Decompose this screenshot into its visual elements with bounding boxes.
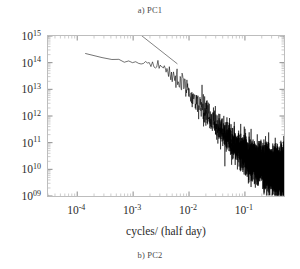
spectrum-plot-svg: 10-410-310-210-1 10151014101310121011101… — [0, 24, 300, 246]
figure-caption-top: a) PC1 — [0, 5, 300, 15]
plot-background — [0, 24, 300, 246]
x-axis-title: cycles/ (half day) — [126, 225, 206, 238]
plot-area: 10-410-310-210-1 10151014101310121011101… — [0, 24, 300, 246]
figure-panel: a) PC1 10-410-310-210-1 1015101410131012… — [0, 0, 300, 269]
figure-caption-bottom: b) PC2 — [0, 250, 300, 260]
